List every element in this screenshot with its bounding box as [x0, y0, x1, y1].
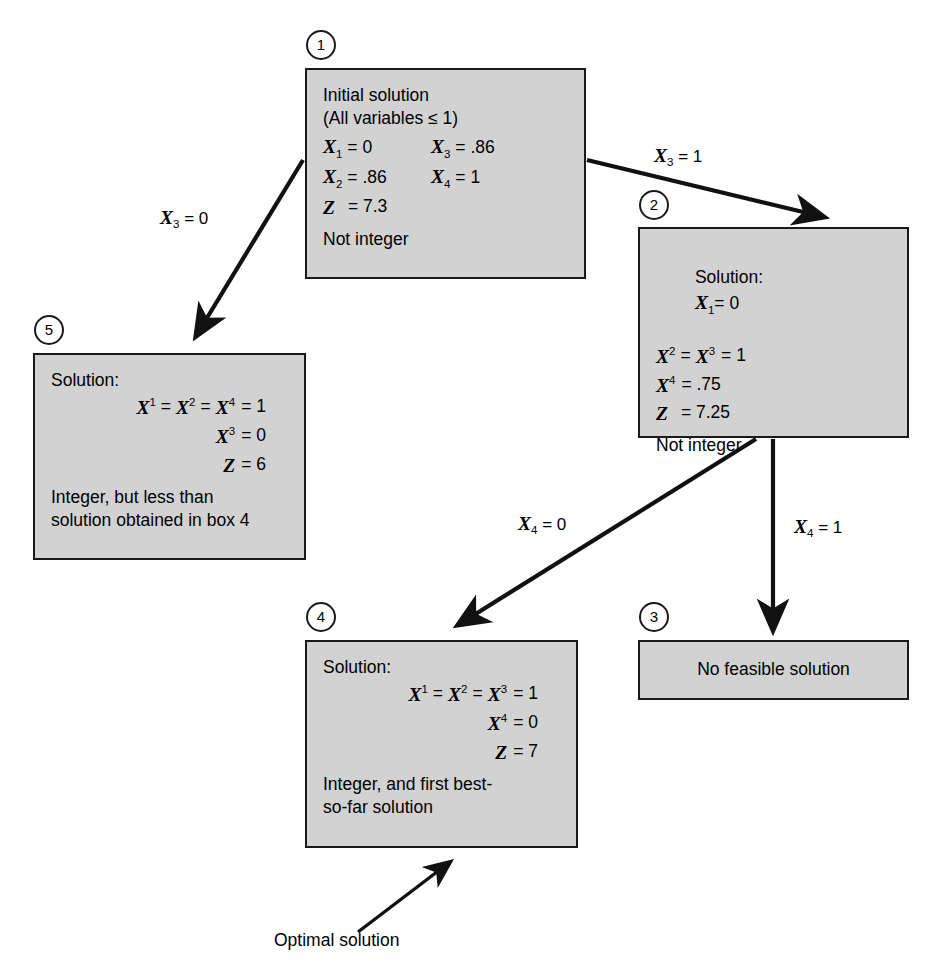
- node-box-4[interactable]: Solution: X1 = X2 = X3 = 1 X4 = 0 Z = 7 …: [305, 640, 578, 848]
- node1-x3-val: = .86: [455, 137, 494, 157]
- node2-x2-var: X: [656, 344, 669, 370]
- branch-and-bound-diagram: 1 Initial solution (All variables ≤ 1) X…: [0, 0, 931, 972]
- node5-header: Solution:: [51, 369, 288, 392]
- node1-z-var: Z: [323, 195, 335, 221]
- edge-label-2-sub: 3: [667, 156, 673, 168]
- node2-row-x4: X4 = .75: [656, 373, 891, 399]
- node-badge-2: 2: [639, 190, 669, 220]
- node4-x3-sub: 3: [501, 682, 507, 708]
- node5-row-z: Z = 6: [51, 453, 288, 479]
- node-box-3[interactable]: No feasible solution: [638, 640, 909, 700]
- node5-x1-sub: 1: [149, 395, 155, 421]
- node5-x3-val: = 0: [241, 424, 266, 450]
- node-box-2[interactable]: Solution: X1= 0 X2 = X3 = 1 X4 = .75 Z =…: [638, 227, 909, 438]
- node5-eq-b: =: [201, 395, 211, 421]
- node2-x1-var: X: [695, 292, 708, 313]
- node4-header: Solution:: [323, 656, 560, 679]
- node1-header-line1: Initial solution: [323, 84, 568, 107]
- node2-x3-var: X: [696, 344, 709, 370]
- node2-x4-var: X: [656, 373, 669, 399]
- node4-x4-val: = 0: [513, 711, 538, 737]
- node1-x1-val: = 0: [347, 137, 372, 157]
- node4-x4-var: X: [488, 711, 501, 737]
- node2-x4-val: = .75: [681, 373, 720, 399]
- edge-label-4-var: X: [794, 516, 807, 537]
- edge-label-x4-eq-0: X4 = 0: [518, 513, 566, 536]
- node4-z-var: Z: [495, 740, 507, 766]
- node2-x3-sub: 3: [709, 344, 715, 370]
- node2-eq2: = 1: [721, 344, 746, 370]
- node2-z-val: = 7.25: [681, 401, 730, 427]
- node-badge-5: 5: [34, 315, 64, 345]
- node1-row-z: Z = 7.3: [323, 195, 568, 221]
- node-badge-4: 4: [306, 602, 336, 632]
- node2-x4-sub: 4: [669, 373, 675, 399]
- node1-z-val: = 7.3: [348, 195, 387, 221]
- node4-row-x4: X4 = 0: [323, 711, 560, 737]
- node4-eq-a: =: [433, 682, 443, 708]
- node4-footer-line1: Integer, and first best-: [323, 773, 560, 796]
- node-badge-3: 3: [639, 602, 669, 632]
- node1-row-x1-x3: X1 = 0 X3 = .86: [323, 134, 568, 162]
- node3-text: No feasible solution: [697, 658, 850, 681]
- node5-chain-val: = 1: [241, 395, 266, 421]
- node2-eq1: =: [680, 344, 690, 370]
- node1-footer: Not integer: [323, 228, 568, 251]
- node2-x2-sub: 2: [669, 344, 675, 370]
- node4-row-chain: X1 = X2 = X3 = 1: [323, 682, 560, 708]
- node-box-5[interactable]: Solution: X1 = X2 = X4 = 1 X3 = 0 Z = 6 …: [33, 353, 306, 560]
- edge-label-x4-eq-1: X4 = 1: [794, 516, 842, 539]
- edge-label-1-sub: 3: [173, 218, 179, 230]
- node2-x1-val: = 0: [714, 293, 739, 313]
- edge-label-x3-eq-0: X3 = 0: [160, 207, 208, 230]
- node5-row-x3: X3 = 0: [51, 424, 288, 450]
- edge-label-1-val: = 0: [184, 209, 208, 228]
- node1-header-line2: (All variables ≤ 1): [323, 107, 568, 130]
- node1-x2-sub: 2: [336, 178, 342, 190]
- edge-label-1-var: X: [160, 207, 173, 228]
- node4-x1-var: X: [408, 682, 421, 708]
- node5-z-val: = 6: [241, 453, 266, 479]
- node1-x4-val: = 1: [455, 167, 480, 187]
- node5-footer-line2: solution obtained in box 4: [51, 509, 288, 532]
- node2-header: Solution: X1= 0: [656, 243, 891, 341]
- connector-1-to-2: [587, 160, 824, 217]
- node5-x1-var: X: [136, 395, 149, 421]
- node4-x4-sub: 4: [501, 711, 507, 737]
- node2-footer: Not integer: [656, 434, 891, 457]
- node4-eq-b: =: [473, 682, 483, 708]
- node1-x2-val: = .86: [347, 167, 386, 187]
- edge-label-3-val: = 0: [542, 515, 566, 534]
- node1-x3-sub: 3: [444, 147, 450, 159]
- edge-label-3-sub: 4: [531, 524, 537, 536]
- node2-z-var: Z: [656, 401, 668, 427]
- node4-chain-val: = 1: [513, 682, 538, 708]
- node2-header-label: Solution:: [695, 267, 763, 287]
- node5-x2-sub: 2: [189, 395, 195, 421]
- connector-optimal-solution: [358, 862, 450, 932]
- node4-z-val: = 7: [513, 740, 538, 766]
- connector-1-to-5: [196, 160, 303, 336]
- node1-x3-var: X: [431, 136, 444, 157]
- node5-row-chain: X1 = X2 = X4 = 1: [51, 395, 288, 421]
- node5-x4-var: X: [216, 395, 229, 421]
- node5-x3-var: X: [216, 424, 229, 450]
- node5-eq-a: =: [161, 395, 171, 421]
- edge-label-4-sub: 4: [807, 527, 813, 539]
- node1-x4-sub: 4: [444, 178, 450, 190]
- node5-x3-sub: 3: [229, 424, 235, 450]
- node-box-1[interactable]: Initial solution (All variables ≤ 1) X1 …: [305, 68, 586, 279]
- edge-label-3-var: X: [518, 513, 531, 534]
- node2-row-z: Z = 7.25: [656, 401, 891, 427]
- node1-x1-var: X: [323, 136, 336, 157]
- node2-row-x2-x3: X2 = X3 = 1: [656, 344, 891, 370]
- node4-x2-var: X: [448, 682, 461, 708]
- node4-x1-sub: 1: [421, 682, 427, 708]
- node4-x2-sub: 2: [461, 682, 467, 708]
- edge-label-x3-eq-1: X3 = 1: [654, 145, 702, 168]
- node5-x2-var: X: [176, 395, 189, 421]
- edge-label-4-val: = 1: [818, 518, 842, 537]
- node1-x2-var: X: [323, 166, 336, 187]
- node5-footer-line1: Integer, but less than: [51, 486, 288, 509]
- edge-label-2-val: = 1: [678, 147, 702, 166]
